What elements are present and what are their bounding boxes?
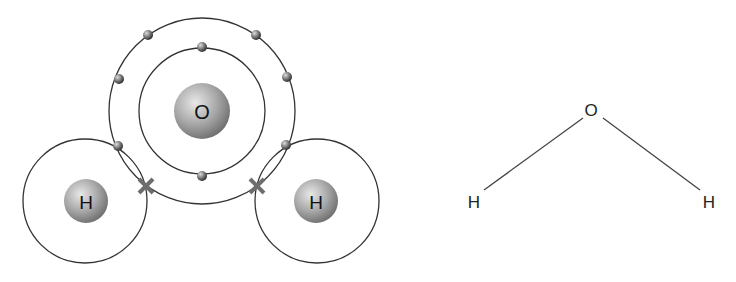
electron	[114, 74, 124, 84]
electron	[251, 30, 261, 40]
electron	[113, 141, 123, 151]
hydrogen-right-nucleus-label: H	[309, 192, 323, 213]
structural-hydrogen-right-label: H	[703, 193, 715, 212]
structural-hydrogen-left-label: H	[468, 193, 480, 212]
bond-left	[484, 118, 583, 190]
oxygen-nucleus: O	[174, 83, 230, 139]
electron	[281, 140, 291, 150]
structural-oxygen-label: O	[584, 101, 597, 120]
oxygen-nucleus-label: O	[194, 101, 210, 123]
electron	[197, 42, 207, 52]
structural-formula: O H H	[468, 101, 715, 212]
shared-electron-cross-right	[250, 179, 264, 193]
hydrogen-left-nucleus-label: H	[79, 192, 93, 213]
electron	[282, 72, 292, 82]
hydrogen-left-nucleus: H	[64, 179, 108, 223]
bond-right	[603, 118, 700, 190]
electron	[143, 30, 153, 40]
bohr-model: O H H	[23, 18, 379, 263]
electron	[197, 171, 207, 181]
hydrogen-right-nucleus: H	[294, 179, 338, 223]
water-molecule-diagram: O H H O H	[0, 0, 736, 282]
